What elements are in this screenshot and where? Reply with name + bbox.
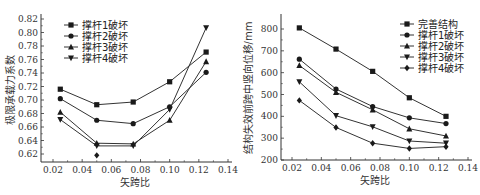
legend-label: 撑杆3破坏 <box>82 41 128 53</box>
y-axis-title: 极限承载力系数 <box>4 55 16 125</box>
y-tick-label: 0.76 <box>18 55 38 65</box>
y-tick-label: 0.70 <box>18 95 38 105</box>
data-point <box>406 126 412 132</box>
x-axis-title: 矢跨比 <box>360 174 390 186</box>
data-point <box>443 121 448 126</box>
legend-label: 撑杆1破坏 <box>82 19 128 31</box>
legend-marker <box>404 65 409 71</box>
data-point <box>297 25 302 30</box>
chart-panel-1: 0.620.640.660.680.700.720.740.760.780.80… <box>4 14 238 188</box>
data-point <box>443 114 448 119</box>
x-tick-label: 0.04 <box>72 165 92 175</box>
data-point <box>94 118 99 123</box>
x-tick-label: 0.04 <box>311 163 331 173</box>
legend-label: 撑杆3破坏 <box>418 51 464 63</box>
data-point <box>57 117 63 123</box>
chart-panel-2: 2003004005006007008000.020.040.060.080.1… <box>242 14 478 186</box>
data-point <box>296 62 302 68</box>
x-tick-label: 0.14 <box>218 165 238 175</box>
y-tick-label: 600 <box>261 68 278 78</box>
series-1 <box>58 49 209 107</box>
y-tick-label: 0.78 <box>18 41 38 51</box>
legend-label: 撑杆4破坏 <box>418 62 464 74</box>
x-tick-label: 0.02 <box>282 163 302 173</box>
y-tick-label: 0.68 <box>18 109 38 119</box>
legend-item: 撑杆2破坏 <box>64 30 128 42</box>
legend-label: 撑杆4破坏 <box>82 52 128 64</box>
x-axis-title: 矢跨比 <box>120 176 150 188</box>
y-tick-label: 500 <box>261 90 278 100</box>
y-tick-label: 700 <box>261 46 278 56</box>
data-point <box>203 25 209 31</box>
x-tick-label: 0.06 <box>341 163 361 173</box>
data-point <box>333 46 338 51</box>
legend-item: 撑杆4破坏 <box>400 62 464 74</box>
y-tick-label: 0.82 <box>18 14 38 24</box>
data-point <box>57 109 63 115</box>
series-line <box>299 82 446 143</box>
y-axis-title: 结构失效前跨中竖向位移/mm <box>242 22 254 155</box>
x-tick-label: 0.10 <box>160 165 180 175</box>
y-tick-label: 0.80 <box>18 28 38 38</box>
legend-item: 撑杆3破坏 <box>400 51 464 63</box>
legend-label: 撑杆2破坏 <box>82 30 128 42</box>
legend-label: 完善结构 <box>418 18 458 30</box>
legend-label: 撑杆2破坏 <box>418 40 464 52</box>
data-point <box>58 96 63 101</box>
x-tick-label: 0.12 <box>189 165 209 175</box>
y-tick-label: 0.62 <box>18 149 38 159</box>
legend-item: 撑杆3破坏 <box>64 41 128 53</box>
legend-marker <box>404 32 409 37</box>
y-tick-label: 0.66 <box>18 122 38 132</box>
y-tick-label: 200 <box>261 155 278 165</box>
legend-marker <box>68 33 73 38</box>
legend-item: 撑杆4破坏 <box>64 52 128 64</box>
x-tick-label: 0.08 <box>130 165 150 175</box>
x-tick-label: 0.12 <box>429 163 449 173</box>
data-point <box>443 143 448 149</box>
data-point <box>167 79 172 84</box>
data-point <box>333 124 338 130</box>
data-point <box>58 87 63 92</box>
y-tick-label: 0.72 <box>18 82 38 92</box>
data-point <box>203 58 209 64</box>
data-point <box>204 70 209 75</box>
x-tick-label: 0.02 <box>43 165 63 175</box>
data-point <box>407 145 412 151</box>
x-tick-label: 0.14 <box>458 163 478 173</box>
legend-item: 撑杆1破坏 <box>64 19 128 31</box>
y-tick-label: 0.74 <box>18 68 38 78</box>
data-point <box>297 97 302 103</box>
legend-item: 撑杆1破坏 <box>400 29 464 41</box>
x-tick-label: 0.08 <box>370 163 390 173</box>
x-tick-label: 0.10 <box>399 163 419 173</box>
y-tick-label: 800 <box>261 24 278 34</box>
legend-item: 撑杆2破坏 <box>400 40 464 52</box>
legend-item: 完善结构 <box>400 18 458 30</box>
annotation-point <box>94 152 99 158</box>
data-point <box>407 95 412 100</box>
x-tick-label: 0.06 <box>101 165 121 175</box>
legend-marker <box>68 22 73 27</box>
data-point <box>131 99 136 104</box>
data-point <box>204 49 209 54</box>
chart-figure: 0.620.640.660.680.700.720.740.760.780.80… <box>0 0 480 195</box>
series-4 <box>296 79 449 146</box>
legend-label: 撑杆1破坏 <box>418 29 464 41</box>
y-tick-label: 0.64 <box>18 136 38 146</box>
data-point <box>370 69 375 74</box>
y-tick-label: 300 <box>261 133 278 143</box>
data-point <box>407 115 412 120</box>
legend-marker <box>404 21 409 26</box>
data-point <box>167 117 173 123</box>
series-4 <box>57 25 209 149</box>
data-point <box>94 102 99 107</box>
data-point <box>131 121 136 126</box>
y-tick-label: 400 <box>261 111 278 121</box>
data-point <box>297 57 302 62</box>
data-point <box>370 140 375 146</box>
